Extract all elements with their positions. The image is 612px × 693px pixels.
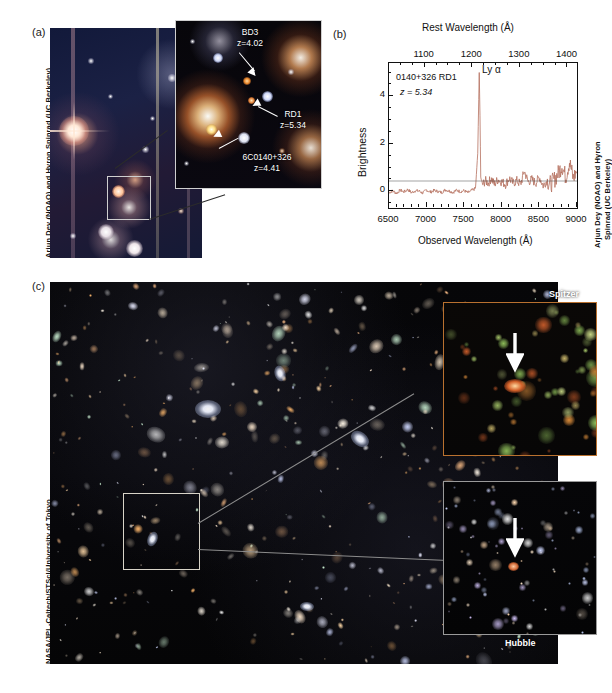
- inset-source: [463, 375, 468, 380]
- deep-field-source: [101, 309, 105, 312]
- inset-star-white-1: [238, 132, 250, 144]
- y-minor-tick: [388, 155, 391, 156]
- annotation-rd1-name: RD1: [284, 109, 301, 119]
- panel-a-zoom-region-box: [107, 176, 151, 220]
- inset-source: [526, 632, 530, 635]
- x-minor-tick-8700: [553, 204, 554, 207]
- deep-field-source: [293, 421, 297, 424]
- deep-field-source: [214, 436, 229, 448]
- deep-field-source: [412, 336, 414, 338]
- inset-source: [560, 605, 567, 612]
- x-minor-tick-8900: [568, 204, 569, 207]
- annotation-6c0140: 6C0140+326 z=4.41: [218, 152, 316, 173]
- y-tick-4: [388, 95, 393, 96]
- inset-source: [466, 552, 471, 557]
- annotation-bd3-redshift: z=4.02: [237, 38, 263, 48]
- panel-a-inset-image: BD3 z=4.02 RD1 z=5.34 6C0140+326 z=4.41: [175, 20, 322, 189]
- deep-field-source: [222, 299, 227, 305]
- deep-field-source: [376, 511, 387, 523]
- inset-source: [471, 356, 477, 362]
- deep-field-source: [288, 579, 290, 582]
- y-tick-label-2: 2: [374, 136, 385, 147]
- x-tick-label-8000: 8000: [487, 213, 515, 224]
- x2-tick-label-1300: 1300: [505, 48, 533, 59]
- inset-source: [524, 580, 530, 586]
- inset-source: [498, 443, 514, 456]
- inset-source: [495, 544, 499, 548]
- y-minor-tick: [388, 83, 391, 84]
- deep-field-source: [191, 419, 196, 424]
- x2-tick-1100: [424, 62, 425, 67]
- deep-field-source: [368, 566, 372, 569]
- x2-tick-label-1100: 1100: [410, 48, 438, 59]
- deep-field-source: [411, 625, 414, 628]
- inset-source: [576, 608, 588, 620]
- field-star-7: [70, 233, 76, 239]
- inset-source: [498, 538, 505, 545]
- inset-source: [503, 618, 509, 624]
- inset-source: [460, 550, 463, 553]
- y-minor-tick: [388, 167, 391, 168]
- x2-minor-tick: [555, 62, 556, 65]
- x-tick-8000: [501, 202, 502, 207]
- hubble-field: [444, 482, 596, 634]
- x2-tick-1300: [519, 62, 520, 67]
- x2-minor-tick: [400, 62, 401, 65]
- inset-source: [551, 539, 554, 542]
- x-tick-7000: [426, 202, 427, 207]
- annotation-6c0140-name: 6C0140+326: [243, 152, 292, 162]
- inset-source: [471, 535, 475, 539]
- x2-minor-tick: [447, 62, 448, 65]
- x-minor-tick-7100: [433, 204, 434, 207]
- x-minor-tick-8300: [523, 204, 524, 207]
- x-minor-tick-7400: [456, 204, 457, 207]
- inset-source: [589, 365, 597, 377]
- deep-field-source: [59, 437, 63, 441]
- inset-source: [583, 348, 588, 353]
- inset-source: [507, 613, 510, 616]
- y-minor-tick: [388, 119, 391, 120]
- inset-source: [583, 567, 589, 573]
- inset-source: [471, 519, 477, 525]
- deep-field-source: [323, 657, 325, 660]
- x-minor-tick-6700: [403, 204, 404, 207]
- x-minor-tick-6900: [418, 204, 419, 207]
- x-minor-tick-7900: [493, 204, 494, 207]
- inset-source: [546, 304, 560, 318]
- x-tick-7500: [463, 202, 464, 207]
- inset-source: [544, 391, 552, 399]
- y-minor-tick: [388, 178, 391, 179]
- x-minor-tick-7800: [486, 204, 487, 207]
- x2-tick-1200: [471, 62, 472, 67]
- inset-hubble-label: Hubble: [505, 638, 536, 648]
- inset-source: [487, 520, 495, 528]
- deep-field-source: [162, 451, 167, 458]
- x-tick-label-7000: 7000: [412, 213, 440, 224]
- inset-source: [545, 531, 553, 539]
- x-minor-tick-8400: [531, 204, 532, 207]
- annotation-rd1: RD1 z=5.34: [269, 109, 317, 130]
- object-bd3: [243, 77, 251, 85]
- deep-field-source: [370, 645, 372, 647]
- chart-top-axis-title: Rest Wavelength (Å): [422, 22, 514, 33]
- deep-field-source: [256, 580, 258, 582]
- y-tick-label-4: 4: [374, 88, 385, 99]
- inset-source: [492, 618, 504, 630]
- x-tick-9000: [576, 202, 577, 207]
- chart-lyalpha-label: Ly α: [482, 64, 501, 75]
- x-minor-tick-7700: [478, 204, 479, 207]
- panel-b-spectrum-chart: Rest Wavelength (Å) Observed Wavelength …: [330, 22, 582, 258]
- star-diffraction-spike-h: [50, 130, 110, 132]
- x-tick-label-7500: 7500: [449, 213, 477, 224]
- inset-source: [538, 427, 554, 443]
- inset-source: [564, 511, 568, 515]
- x-tick-label-9000: 9000: [562, 213, 590, 224]
- deep-field-source: [96, 509, 102, 516]
- annotation-6c0140-redshift: z=4.41: [254, 163, 280, 173]
- panel-b-credit-line2: Spinrad (UC Berkeley): [603, 159, 612, 240]
- inset-source: [478, 433, 488, 443]
- detector-streak-2: [156, 28, 159, 258]
- deep-field-source: [171, 589, 173, 592]
- deep-field-source: [88, 558, 91, 561]
- field-star-9: [108, 94, 113, 99]
